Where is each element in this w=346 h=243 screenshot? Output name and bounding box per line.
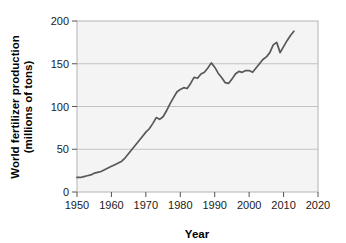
x-tick-label-1980: 1980 <box>168 199 192 211</box>
y-tick-label-200: 200 <box>51 15 69 27</box>
x-tick-label-1950: 1950 <box>65 199 89 211</box>
y-tick-label-150: 150 <box>51 58 69 70</box>
x-axis: 19501960197019801990200020102020 <box>65 192 330 211</box>
y-axis-title-line-1: World fertilizer production <box>9 35 21 179</box>
y-tick-label-50: 50 <box>57 143 69 155</box>
x-tick-label-1970: 1970 <box>134 199 158 211</box>
y-axis: 050100150200 <box>51 15 77 198</box>
x-axis-title: Year <box>185 228 210 240</box>
x-tick-label-2000: 2000 <box>237 199 261 211</box>
x-tick-label-1960: 1960 <box>99 199 123 211</box>
x-tick-label-2020: 2020 <box>306 199 330 211</box>
fertilizer-production-line-chart: 050100150200 195019601970198019902000201… <box>0 0 346 243</box>
x-tick-label-2010: 2010 <box>271 199 295 211</box>
x-tick-label-1990: 1990 <box>202 199 226 211</box>
y-tick-label-100: 100 <box>51 101 69 113</box>
y-tick-label-0: 0 <box>63 186 69 198</box>
chart-figure: 050100150200 195019601970198019902000201… <box>0 0 346 243</box>
y-axis-title-line-2: (millions of tons) <box>22 61 34 154</box>
